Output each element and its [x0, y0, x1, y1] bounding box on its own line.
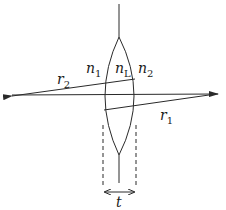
- radius-r2-line: [12, 79, 135, 96]
- lens-right-surface: [119, 37, 134, 155]
- label-r2: r2: [57, 71, 70, 90]
- thick-lens-diagram: n1 nL n2 r2 r1 t: [0, 0, 226, 210]
- label-r1: r1: [160, 107, 173, 126]
- label-n2: n2: [138, 60, 153, 79]
- label-thickness-t: t: [116, 194, 122, 210]
- lens-left-surface: [105, 37, 119, 155]
- optical-axis: [12, 94, 218, 95]
- label-nL: nL: [115, 60, 131, 79]
- label-n1: n1: [86, 60, 101, 79]
